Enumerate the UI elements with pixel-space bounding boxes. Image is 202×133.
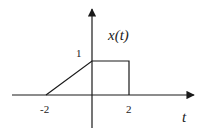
signal-diagram: x(t) 1 -2 2 t xyxy=(0,0,202,133)
y-tick-label-1: 1 xyxy=(76,47,82,59)
signal-label: x(t) xyxy=(107,27,129,44)
t-axis-label: t xyxy=(182,109,187,125)
signal-waveform xyxy=(46,61,129,95)
x-tick-label-2: 2 xyxy=(126,103,132,115)
x-tick-label-neg2: -2 xyxy=(40,103,49,115)
